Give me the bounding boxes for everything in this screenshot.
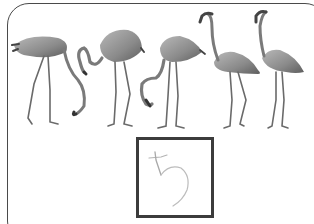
flamingo-icon [79, 30, 144, 126]
flamingo-icon [200, 13, 260, 128]
flamingo-icon [12, 37, 84, 124]
flamingo-icon [142, 36, 206, 128]
answer-box[interactable]: 5 [136, 137, 214, 218]
handwritten-five-icon [139, 140, 211, 215]
flamingo-icon [256, 12, 304, 129]
